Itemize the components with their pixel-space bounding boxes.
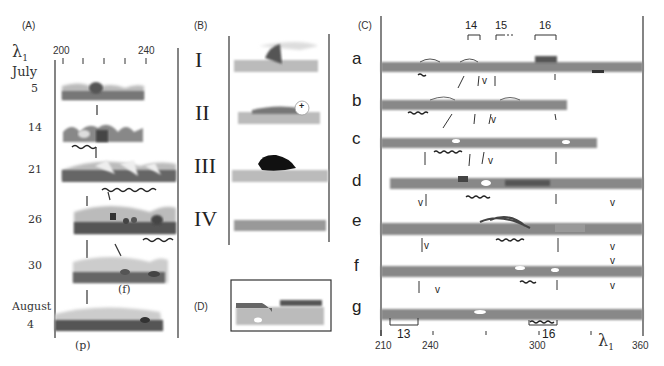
stage-iv-sketch xyxy=(234,220,326,231)
axis-tick-300: 300 xyxy=(529,340,546,351)
v-marker-d-left: v xyxy=(418,197,423,208)
lambda-subscript: 1 xyxy=(608,342,614,352)
row-label-c: c xyxy=(352,129,361,149)
date-july-21: 21 xyxy=(0,163,42,176)
panel-c-axis-symbol: λ1 xyxy=(598,331,614,352)
panel-a-graphics xyxy=(55,48,178,338)
annotation-f: (f) xyxy=(118,283,131,296)
belt-row-e xyxy=(381,217,643,235)
month-july: July xyxy=(12,64,37,79)
date-july-5: 5 xyxy=(0,82,38,95)
belt-row-f xyxy=(381,266,643,277)
row-label-d: d xyxy=(352,171,361,191)
v-marker-f-left: v xyxy=(435,284,440,295)
month-august: August xyxy=(12,300,51,313)
panel-b-label: (B) xyxy=(194,20,207,31)
date-august-4: 4 xyxy=(0,318,34,331)
belt-sketch-july-26 xyxy=(74,206,176,234)
axis-tick-210: 210 xyxy=(375,340,392,351)
bracket-label-16: 16 xyxy=(539,19,551,31)
panel-a-label: (A) xyxy=(22,20,35,31)
date-july-30: 30 xyxy=(0,259,42,272)
stage-iii-sketch xyxy=(232,155,328,182)
stage-iv-label: IV xyxy=(194,206,217,232)
row-label-g: g xyxy=(352,297,361,317)
bracket-label-14: 14 xyxy=(465,19,477,31)
bracket-label-16-bottom: 16 xyxy=(542,327,555,341)
axis-tick-360: 360 xyxy=(632,340,649,351)
v-marker-e-left: v xyxy=(424,240,429,251)
figure-graphics xyxy=(0,0,664,366)
stage-iii-label: III xyxy=(194,153,216,179)
lambda-symbol: λ xyxy=(598,331,608,350)
belt-sketch-july-14 xyxy=(63,125,143,142)
v-marker-a: v xyxy=(482,75,487,86)
bracket-label-13: 13 xyxy=(397,327,410,341)
v-marker-f-right: v xyxy=(610,280,615,291)
stage-i-sketch xyxy=(234,42,318,72)
date-july-26: 26 xyxy=(0,213,42,226)
lambda-subscript: 1 xyxy=(22,53,28,63)
belt-sketch-august-4 xyxy=(55,307,163,331)
row-label-f: f xyxy=(354,256,359,276)
panel-c-graphics xyxy=(381,16,643,336)
panel-d-label: (D) xyxy=(194,301,208,312)
belt-row-g xyxy=(381,309,643,320)
v-marker-g-right: v xyxy=(610,255,615,266)
v-marker-b: v xyxy=(491,114,496,125)
row-label-b: b xyxy=(352,91,361,111)
v-marker-c: v xyxy=(488,155,493,166)
belt-sketch-july-5 xyxy=(62,82,144,100)
row-label-a: a xyxy=(352,49,361,69)
panel-a-axis-symbol: λ1 xyxy=(12,42,28,63)
belt-sketch-july-21 xyxy=(62,160,176,182)
belt-row-d xyxy=(390,176,643,189)
belt-row-a xyxy=(381,56,643,73)
row-label-e: e xyxy=(352,211,361,231)
lambda-symbol: λ xyxy=(12,42,22,61)
panel-c-label: (C) xyxy=(358,20,372,31)
panel-d-graphics xyxy=(231,280,331,331)
plus-marker: + xyxy=(299,101,304,111)
v-marker-d-right: v xyxy=(610,197,615,208)
belt-row-c xyxy=(381,138,597,148)
v-marker-e-right: v xyxy=(610,241,615,252)
annotation-p: (p) xyxy=(75,339,91,352)
axis-tick-240: 240 xyxy=(422,340,439,351)
stage-ii-sketch xyxy=(238,101,320,124)
panel-a-tick-240: 240 xyxy=(138,45,155,56)
belt-sketch-july-30 xyxy=(73,257,168,283)
stage-i-label: I xyxy=(195,47,202,73)
panel-b-graphics xyxy=(229,34,329,245)
stage-ii-label: II xyxy=(195,100,210,126)
bracket-label-15: 15 xyxy=(495,19,507,31)
belt-row-b xyxy=(381,97,567,110)
date-july-14: 14 xyxy=(0,121,42,134)
panel-a-tick-200: 200 xyxy=(53,45,70,56)
